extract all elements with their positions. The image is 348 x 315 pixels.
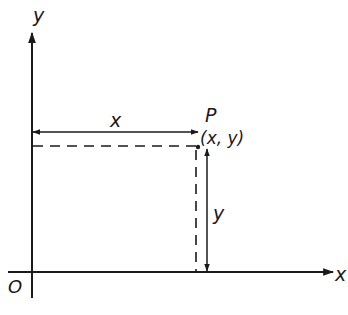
y-distance-label: y — [212, 202, 225, 224]
point-coords-label: (x, y) — [200, 128, 244, 148]
x-distance-label: x — [109, 109, 122, 131]
point-name-label: P — [205, 104, 217, 126]
coordinate-diagram: y x O x P (x, y) y — [0, 0, 348, 315]
origin-label: O — [8, 276, 22, 297]
y-axis-label: y — [32, 4, 45, 26]
x-axis-label: x — [334, 263, 347, 285]
